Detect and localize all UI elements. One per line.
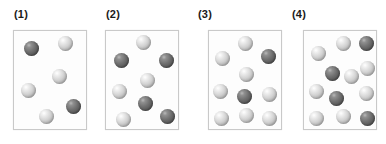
light-sphere [360,61,375,76]
light-sphere [336,109,351,124]
light-sphere [336,36,351,51]
light-sphere [309,84,324,99]
figure-root: (1)(2)(3)(4) [0,0,386,144]
light-sphere [344,69,359,84]
dark-sphere [329,91,344,106]
light-sphere [311,46,326,61]
light-sphere [309,111,324,126]
dark-sphere [359,36,374,51]
sphere-box-4 [303,30,377,130]
panel-4: (4) [0,0,386,144]
panel-label-4: (4) [292,8,306,21]
dark-sphere [360,111,375,126]
light-sphere [359,86,374,101]
dark-sphere [325,66,340,81]
